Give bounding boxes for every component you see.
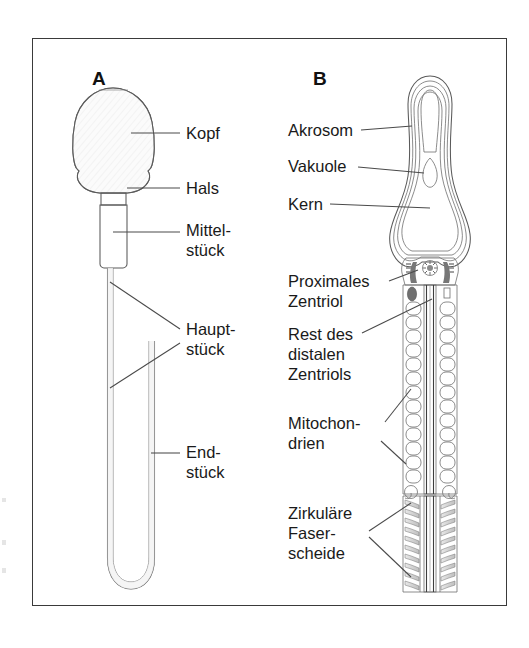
scan-artifact	[2, 540, 6, 545]
label-kopf: Kopf	[186, 124, 220, 144]
label-hauptstueck-line2: stück	[186, 340, 225, 360]
label-rest-distales-zentriol-line1: Rest des	[288, 325, 353, 345]
label-rest-distales-zentriol-line2: distalen	[288, 345, 345, 365]
label-vakuole: Vakuole	[288, 157, 346, 177]
sperm-anatomy-figure: A Kopf Hals Mittel- stück Haupt- stück E…	[0, 0, 529, 648]
scan-artifact	[2, 568, 6, 573]
figure-border	[32, 38, 507, 606]
label-endstueck-line1: End-	[186, 443, 221, 463]
label-proximales-zentriol-line1: Proximales	[288, 272, 370, 292]
label-mitochondrien-line1: Mitochon-	[288, 414, 360, 434]
label-hauptstueck-line1: Haupt-	[186, 320, 236, 340]
scan-artifact	[2, 498, 6, 502]
label-mittelstueck-line2: stück	[186, 241, 225, 261]
label-proximales-zentriol-line2: Zentriol	[288, 292, 343, 312]
label-endstueck-line2: stück	[186, 463, 225, 483]
label-zirkulaere-faserscheide-line3: scheide	[288, 544, 345, 564]
label-zirkulaere-faserscheide-line2: Faser-	[288, 524, 336, 544]
label-kern: Kern	[288, 195, 323, 215]
label-rest-distales-zentriol-line3: Zentriols	[288, 365, 351, 385]
label-mitochondrien-line2: drien	[288, 434, 325, 454]
panel-letter-a: A	[92, 68, 106, 90]
label-hals: Hals	[186, 179, 219, 199]
label-akrosom: Akrosom	[288, 121, 353, 141]
label-zirkulaere-faserscheide-line1: Zirkuläre	[288, 504, 352, 524]
panel-letter-b: B	[313, 68, 327, 90]
label-mittelstueck-line1: Mittel-	[186, 221, 231, 241]
